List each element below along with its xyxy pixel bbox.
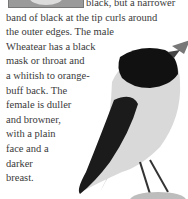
text-line: female is duller — [6, 98, 186, 113]
text-line: darker — [6, 157, 186, 172]
text-line: a whitish to orange- — [6, 69, 186, 84]
text-line: black, but a narrower — [6, 0, 186, 11]
text-line: and browner, — [6, 113, 186, 128]
text-line: breast. — [6, 171, 186, 186]
text-line: Wheatear has a black — [6, 40, 186, 55]
text-line: mask or throat and — [6, 54, 186, 69]
text-line: the outer edges. The male — [6, 25, 186, 40]
text-line: with a plain — [6, 127, 186, 142]
text-line: band of black at the tip curls around — [6, 11, 186, 26]
text-line: buff back. The — [6, 84, 186, 99]
article-text: black, but a narrower band of black at t… — [6, 0, 186, 186]
text-line: face and a — [6, 142, 186, 157]
